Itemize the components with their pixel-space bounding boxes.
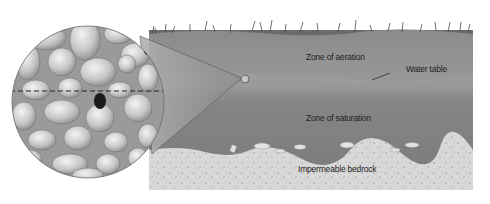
label-zone-of-saturation: Zone of saturation <box>306 113 371 123</box>
label-zone-of-aeration: Zone of aeration <box>306 52 365 62</box>
groundwater-diagram <box>0 0 490 204</box>
label-water-table: Water table <box>406 64 447 74</box>
magnified-spot <box>241 75 249 83</box>
label-impermeable-bedrock: Impermeable bedrock <box>298 164 376 174</box>
